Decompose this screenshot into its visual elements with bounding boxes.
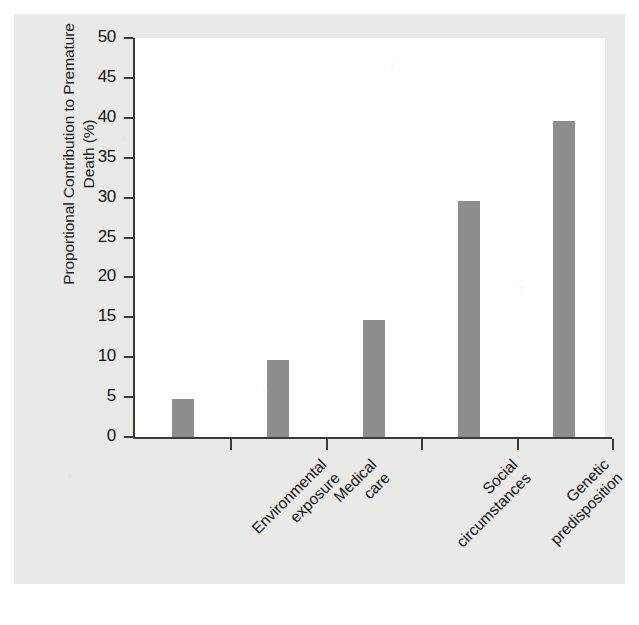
x-axis-tick-mark — [326, 439, 328, 450]
x-axis-label-genetic-predisposition: Genetic predisposition — [532, 455, 625, 549]
bar-medical-care — [267, 360, 289, 437]
y-axis-tick-mark — [124, 396, 133, 398]
figure-panel: Proportional Contribution to Premature D… — [14, 14, 625, 584]
y-axis-tick-label: 10 — [98, 346, 116, 366]
y-axis-tick-label: 35 — [98, 147, 116, 167]
y-axis-tick-label: 40 — [98, 107, 116, 127]
y-axis-tick-label: 50 — [98, 27, 116, 47]
y-axis-tick-label: 20 — [98, 266, 116, 286]
y-axis-tick-label: 30 — [98, 187, 116, 207]
x-axis-tick-mark — [612, 439, 614, 450]
x-axis-label-environmental-exposure: Environmental exposure — [247, 455, 343, 551]
y-axis-tick-mark — [124, 197, 133, 199]
y-axis-tick-mark — [124, 157, 133, 159]
bar-genetic-predisposition — [458, 201, 480, 437]
bar-social-circumstances — [363, 320, 385, 437]
x-axis-tick-mark — [421, 439, 423, 450]
y-axis-tick-mark — [124, 356, 133, 358]
y-axis-tick-label: 25 — [98, 227, 116, 247]
bar-behavioral-patterns — [553, 121, 575, 437]
y-axis-tick-label: 5 — [107, 386, 116, 406]
y-axis-tick-mark — [124, 37, 133, 39]
bars-layer — [135, 38, 612, 437]
y-axis-tick-label: 45 — [98, 67, 116, 87]
y-axis-tick-mark — [124, 276, 133, 278]
y-axis-tick-mark — [124, 237, 133, 239]
x-axis-label-behavioral-patterns: Behavioral patterns — [621, 455, 625, 533]
y-axis-title: Proportional Contribution to Premature D… — [59, 14, 99, 344]
bar-environmental-exposure — [172, 399, 194, 437]
x-axis-tick-mark — [517, 439, 519, 450]
y-axis-tick-mark — [124, 316, 133, 318]
y-axis-tick-mark — [124, 436, 133, 438]
x-axis-label-medical-care: Medical care — [330, 455, 394, 519]
y-axis-tick-label: 0 — [107, 426, 116, 446]
y-axis-tick-mark — [124, 77, 133, 79]
x-axis-line — [133, 437, 612, 439]
x-axis-label-social-circumstances: Social circumstances — [438, 455, 534, 551]
x-axis-tick-mark — [230, 439, 232, 450]
y-axis-tick-label: 15 — [98, 306, 116, 326]
y-axis-tick-mark — [124, 117, 133, 119]
